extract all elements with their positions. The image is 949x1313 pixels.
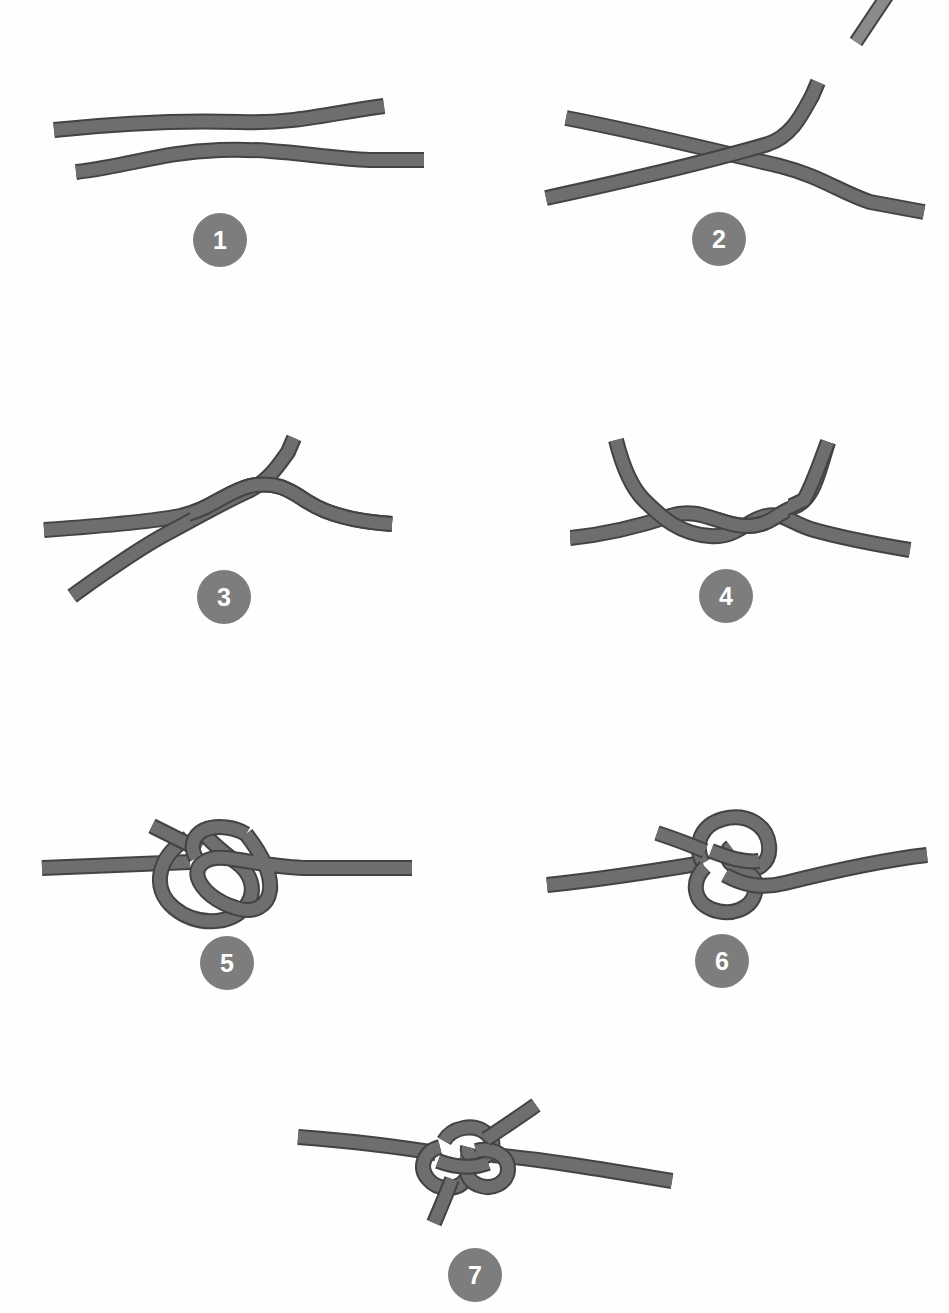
step-6-badge: 6: [695, 934, 749, 988]
step-4-illustration: [570, 430, 940, 610]
step-3-badge: 3: [197, 570, 251, 624]
step-4-badge: 4: [699, 569, 753, 623]
step-2-badge: 2: [692, 212, 746, 266]
step-5-number: 5: [220, 951, 234, 976]
step-2-illustration: [540, 70, 940, 240]
step-7-illustration: [280, 1095, 680, 1235]
step-1-illustration: [40, 80, 440, 210]
instruction-sheet: 1 2: [0, 0, 949, 1313]
rope-fragment-top-right-icon: [846, 0, 916, 50]
step-4-number: 4: [719, 584, 733, 609]
step-1-badge: 1: [193, 213, 247, 267]
step-5-badge: 5: [200, 936, 254, 990]
step-5-illustration: [40, 810, 420, 945]
step-1-number: 1: [213, 228, 227, 253]
step-6-illustration: [545, 805, 935, 945]
step-6-number: 6: [715, 949, 729, 974]
step-7-badge: 7: [448, 1248, 502, 1302]
step-7-number: 7: [468, 1263, 482, 1288]
step-3-number: 3: [217, 585, 231, 610]
step-2-number: 2: [712, 227, 726, 252]
